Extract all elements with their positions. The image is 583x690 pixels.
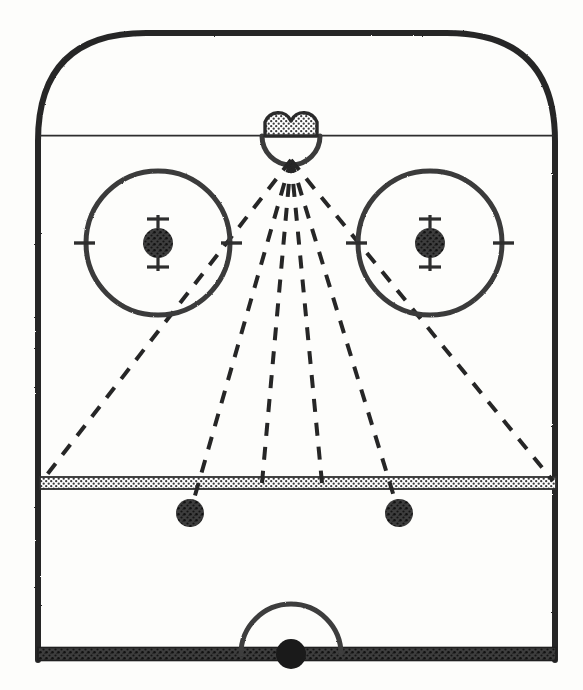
faceoff-circle-left <box>74 171 242 315</box>
faceoff-circle-left-dot <box>143 228 173 258</box>
rink-diagram-stage <box>0 0 583 690</box>
blue-line <box>40 477 556 489</box>
rink-diagram-svg <box>0 0 583 690</box>
neutral-zone-dot-right <box>385 499 413 527</box>
center-ice-dot <box>276 639 306 669</box>
shooting-angle-lines <box>42 160 553 660</box>
angle-ray-far-left <box>42 160 291 481</box>
neutral-zone-dot-left <box>176 499 204 527</box>
angle-ray-far-right <box>291 160 553 481</box>
faceoff-circle-right <box>346 171 514 315</box>
blue-line-group <box>40 477 556 489</box>
goal-net-group <box>265 113 317 136</box>
neutral-zone-dots-group <box>176 499 413 527</box>
faceoff-circle-right-dot <box>415 228 445 258</box>
goal-net <box>265 113 317 136</box>
